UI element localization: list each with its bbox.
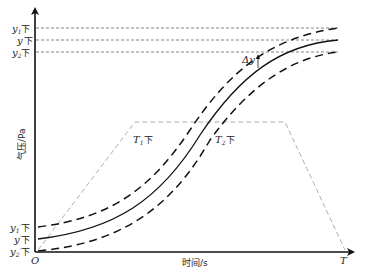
label-y1: y1下 [11, 23, 30, 35]
label-y-prime: y′下 [13, 234, 30, 245]
delta-y-label: Δy [241, 54, 255, 65]
label-y: y下 [16, 35, 33, 46]
label-y1-prime: y1′下 [9, 222, 30, 234]
top-labels: y1下 y下 y2下 [11, 23, 33, 59]
t1-label: T1下 [133, 134, 153, 146]
x-end-label: T [340, 255, 348, 266]
x-axis-title: 时间/s [182, 257, 208, 268]
label-y2-prime: y2′下 [9, 246, 30, 258]
label-y2: y2下 [11, 47, 30, 59]
delta-marker: Δy [241, 54, 260, 68]
y-axis-title: 气压/Pa [16, 128, 27, 160]
origin-label: O [31, 255, 39, 266]
upper-bound-curve [38, 28, 338, 227]
axes [35, 12, 350, 252]
lower-bound-curve [38, 52, 338, 251]
bottom-labels: y1′下 y′下 y2′下 [9, 222, 30, 258]
pressure-time-diagram: Δy y1下 y下 y2下 y1′下 y′下 y2′下 O T T1下 [0, 0, 369, 280]
t2-label: T2下 [215, 134, 235, 146]
trapezoid-profile [38, 122, 345, 250]
